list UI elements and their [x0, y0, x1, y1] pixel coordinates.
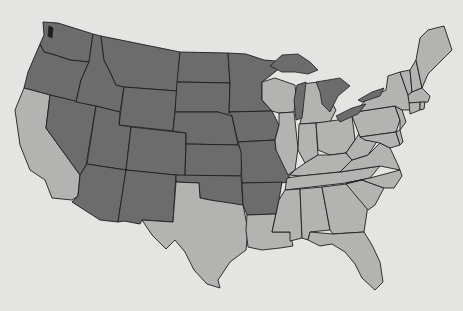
state-maine[interactable] [416, 26, 452, 88]
state-north-dakota[interactable] [177, 52, 230, 83]
state-wyoming[interactable] [119, 87, 177, 131]
lake-superior [270, 54, 318, 74]
state-new-mexico[interactable] [118, 170, 176, 224]
state-arkansas[interactable] [242, 182, 282, 215]
state-connecticut[interactable] [409, 102, 420, 114]
puget-sound [48, 26, 53, 38]
state-colorado[interactable] [126, 127, 186, 176]
state-iowa[interactable] [229, 111, 279, 142]
state-florida[interactable] [308, 232, 383, 290]
state-rhode-island[interactable] [420, 102, 425, 110]
state-kansas[interactable] [185, 144, 242, 176]
state-south-dakota[interactable] [175, 82, 230, 116]
us-states-map [0, 0, 463, 311]
